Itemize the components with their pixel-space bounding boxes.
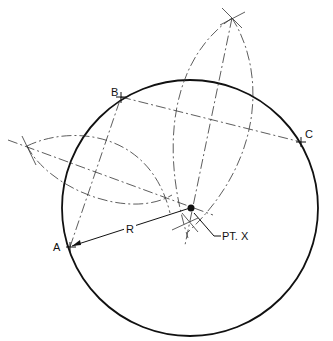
center-point-x [188, 205, 195, 212]
label-b: B [111, 86, 118, 98]
arc-bc-left [173, 18, 232, 238]
label-r: R [126, 223, 134, 235]
arc-ab-upper [27, 136, 170, 213]
tick-top-2 [220, 12, 245, 25]
tick-left [22, 136, 36, 165]
label-pt-x: PT. X [222, 230, 249, 242]
tick-top-1 [222, 8, 242, 28]
label-a: A [53, 241, 61, 253]
leader-pt-x [194, 213, 221, 236]
bisector-ab [8, 140, 213, 215]
geometry-diagram: R A B C PT. X [0, 0, 333, 341]
arc-bc-right [188, 18, 253, 232]
label-c: C [305, 128, 313, 140]
radius-arrow-icon [72, 240, 81, 246]
tick-x-2 [182, 213, 198, 232]
